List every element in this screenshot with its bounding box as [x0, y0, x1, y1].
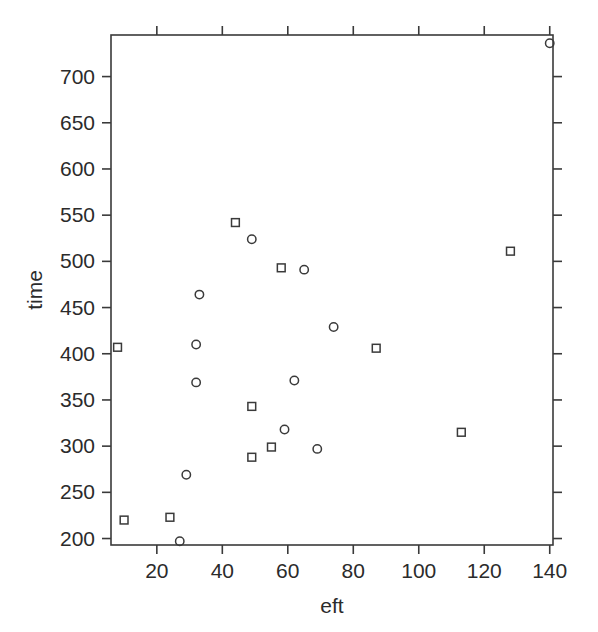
- x-axis-tick-label: 20: [145, 559, 168, 582]
- data-point-square: [248, 403, 256, 411]
- data-point-circle: [192, 378, 200, 386]
- data-point-square: [166, 513, 174, 521]
- data-point-circle: [248, 235, 256, 243]
- data-point-square: [277, 264, 285, 272]
- y-axis-tick-label: 350: [60, 388, 95, 411]
- data-point-circle: [280, 425, 288, 433]
- data-point-square: [507, 247, 515, 255]
- y-axis-tick-label: 600: [60, 157, 95, 180]
- x-axis-tick-label: 60: [276, 559, 299, 582]
- plot-frame: [111, 35, 553, 545]
- x-axis-title: eft: [320, 594, 344, 617]
- data-point-square: [232, 219, 240, 227]
- y-axis-tick-label: 700: [60, 65, 95, 88]
- y-axis-tick-label: 400: [60, 342, 95, 365]
- data-point-square: [457, 428, 465, 436]
- data-point-square: [268, 443, 276, 451]
- x-axis-tick-label: 80: [342, 559, 365, 582]
- x-axis-tick-label: 40: [211, 559, 234, 582]
- y-axis-tick-label: 200: [60, 527, 95, 550]
- y-axis-tick-label: 500: [60, 249, 95, 272]
- data-point-circle: [182, 471, 190, 479]
- data-point-circle: [300, 265, 308, 273]
- data-point-square: [114, 343, 122, 351]
- y-axis-tick-label: 250: [60, 480, 95, 503]
- data-point-square: [120, 516, 128, 524]
- y-axis-tick-label: 650: [60, 111, 95, 134]
- data-point-circle: [329, 323, 337, 331]
- data-point-circle: [313, 445, 321, 453]
- data-point-square: [372, 344, 380, 352]
- data-point-circle: [195, 290, 203, 298]
- data-point-circle: [290, 376, 298, 384]
- y-axis-tick-label: 450: [60, 296, 95, 319]
- y-axis-title: time: [23, 270, 46, 310]
- x-axis-tick-label: 120: [467, 559, 502, 582]
- scatter-plot-figure: 2002503003504004505005506006507002040608…: [0, 0, 598, 632]
- plot-canvas: 2002503003504004505005506006507002040608…: [0, 0, 598, 632]
- data-point-square: [248, 453, 256, 461]
- y-axis-tick-label: 550: [60, 203, 95, 226]
- x-axis-tick-label: 140: [532, 559, 567, 582]
- y-axis-tick-label: 300: [60, 434, 95, 457]
- x-axis-tick-label: 100: [401, 559, 436, 582]
- data-point-circle: [192, 340, 200, 348]
